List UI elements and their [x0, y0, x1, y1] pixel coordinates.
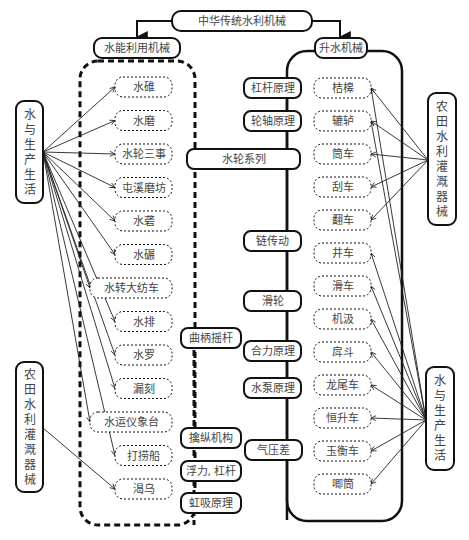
- title-node-label: 中华传统水利机械: [198, 14, 286, 28]
- right-item: 筒车: [314, 144, 371, 164]
- left-item-label: 水碾: [133, 249, 155, 262]
- link-right-bottom: [371, 385, 426, 420]
- right-item: 龙尾车: [314, 375, 371, 395]
- right-item: 机汲: [314, 309, 371, 329]
- principle-right-label: 滑轮: [262, 294, 284, 308]
- side-group-right-bottom-char: 水: [434, 374, 446, 388]
- side-group-left-bottom-char: 利: [24, 413, 36, 427]
- side-group-right-bottom-char: 生: [434, 404, 446, 418]
- right-item: 刮车: [314, 177, 371, 197]
- left-item: 屯溪磨坊: [115, 178, 172, 198]
- right-item-label: 辘轳: [332, 114, 354, 128]
- right-item-label: 筒车: [332, 147, 354, 161]
- principle-right-label: 合力原理: [251, 344, 295, 358]
- right-item: 戽斗: [314, 342, 371, 362]
- side-group-right-bottom-char: 生: [434, 434, 446, 448]
- side-group-left-top-char: 水: [24, 108, 36, 122]
- left-item: 水砻: [115, 211, 172, 231]
- right-item: 滑车: [314, 276, 371, 296]
- left-item-label: 打捞船: [127, 449, 160, 463]
- left-item-label: 水排: [133, 315, 155, 329]
- principle-right: 轮轴原理: [244, 111, 301, 131]
- principle-right-label: 水泵原理: [251, 382, 295, 395]
- side-group-left-bottom-char: 水: [24, 398, 36, 412]
- right-item-label: 唧筒: [332, 477, 354, 491]
- right-item-label: 龙尾车: [326, 378, 359, 392]
- left-item: 漏刻: [115, 379, 172, 399]
- right-item: 恒升车: [314, 408, 371, 428]
- principle-left-label: 浮力, 杠杆: [186, 464, 237, 478]
- side-group-right-top-char: 器: [436, 190, 448, 204]
- right-item: 玉衡车: [314, 441, 371, 461]
- link-right-bottom: [371, 286, 426, 420]
- principle-right: 杠杆原理: [244, 78, 301, 98]
- principle-left: 曲柄摇杆: [181, 328, 241, 348]
- principle-left: 浮力, 杠杆: [181, 461, 241, 481]
- principle-left-label: 曲柄摇杆: [189, 331, 233, 345]
- left-item-label: 水砻: [133, 214, 155, 228]
- side-group-left-top-char: 与: [24, 123, 36, 137]
- side-group-right-top: 农田水利灌溉器械: [428, 93, 456, 225]
- right-item-label: 戽斗: [332, 345, 354, 359]
- side-group-left-bottom-char: 田: [24, 383, 36, 397]
- side-group-right-top-char: 械: [436, 204, 448, 219]
- left-item-label: 渴乌: [133, 482, 155, 496]
- side-group-left-top: 水与生产生活: [16, 101, 43, 203]
- principle-right-label: 链传动: [256, 234, 289, 248]
- side-group-left-bottom-char: 灌: [24, 428, 36, 442]
- link-right-bottom: [371, 352, 426, 420]
- link-right-top: [371, 88, 428, 160]
- link-right-bottom: [371, 121, 426, 420]
- side-group-right-top-char: 田: [436, 115, 448, 129]
- side-group-right-bottom-char: 与: [434, 389, 446, 403]
- principle-left-label: 擒纵机构: [189, 431, 233, 445]
- principle-right-label: 轮轴原理: [251, 114, 295, 128]
- right-item: 辘轳: [314, 111, 371, 131]
- right-item: 唧筒: [314, 474, 371, 494]
- left-item-label: 水转大纺车: [104, 281, 159, 295]
- title-to-right-connector: [312, 21, 340, 37]
- principle-left: 擒纵机构: [181, 428, 241, 448]
- right-item-label: 翻车: [332, 213, 354, 227]
- link-left-top: [43, 152, 115, 456]
- left-item: 水罗: [115, 345, 172, 365]
- principle-right: 水泵原理: [244, 378, 301, 398]
- principle-right: 链传动: [244, 231, 301, 251]
- principle-right: 气压差: [245, 440, 302, 460]
- left-item-label: 水磨: [133, 115, 155, 128]
- link-right-top: [371, 160, 428, 187]
- category-water-power-label: 水能利用机械: [104, 41, 170, 55]
- right-item-label: 机汲: [332, 312, 354, 326]
- side-group-right-bottom-char: 产: [434, 419, 446, 433]
- link-right-bottom: [371, 253, 426, 420]
- right-item: 井车: [314, 243, 371, 263]
- right-item-label: 井车: [332, 246, 354, 260]
- side-group-right-top-char: 水: [436, 130, 448, 144]
- side-group-left-bottom-char: 溉: [24, 443, 36, 457]
- side-group-left-top-char: 生: [24, 168, 36, 182]
- left-item: 水运仪象台: [90, 412, 172, 432]
- right-item-label: 玉衡车: [326, 444, 359, 458]
- principle-right: 水轮系列: [187, 149, 300, 169]
- side-group-right-top-char: 灌: [436, 160, 448, 174]
- link-right-bottom: [371, 420, 426, 451]
- link-left-top: [43, 152, 90, 422]
- left-item: 渴乌: [115, 479, 172, 499]
- left-item-label: 水罗: [133, 349, 155, 362]
- link-left-top: [43, 152, 115, 255]
- right-item-label: 滑车: [332, 279, 354, 293]
- side-group-left-bottom-char: 械: [24, 472, 36, 487]
- category-water-lifting: 升水机械: [315, 38, 367, 58]
- category-water-lifting-label: 升水机械: [319, 41, 363, 55]
- principle-right-label: 气压差: [257, 443, 290, 457]
- left-item: 水轮三事: [115, 144, 172, 164]
- principle-right-label: 水轮系列: [222, 152, 266, 166]
- left-item: 水磨: [115, 111, 172, 131]
- right-item-label: 恒升车: [326, 411, 359, 425]
- category-water-power: 水能利用机械: [94, 38, 180, 58]
- principle-right: 滑轮: [244, 291, 301, 311]
- side-group-right-top-char: 溉: [436, 175, 448, 189]
- link-right-top: [371, 154, 428, 160]
- left-item: 水转大纺车: [90, 278, 172, 298]
- right-item-label: 桔槔: [332, 81, 354, 95]
